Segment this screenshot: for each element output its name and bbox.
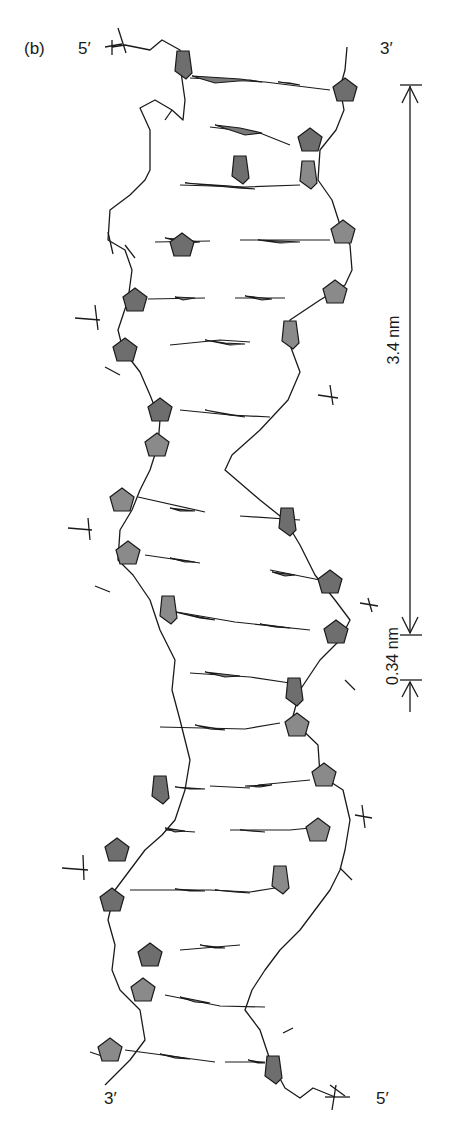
sugar-rings — [98, 51, 357, 1084]
base-pairs — [125, 76, 330, 1063]
dna-helix-diagram — [0, 0, 452, 1147]
dimension-arrows — [400, 85, 422, 712]
backbones — [105, 40, 352, 1098]
